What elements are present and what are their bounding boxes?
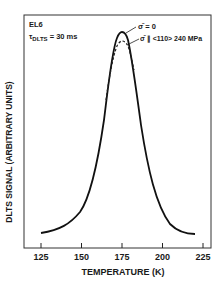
x-tick-125: 125 xyxy=(33,252,48,262)
x-ticks xyxy=(41,243,203,248)
x-axis-title: TEMPERATURE (K) xyxy=(82,267,165,277)
series-sigma-zero xyxy=(41,32,195,234)
x-tick-150: 150 xyxy=(74,252,89,262)
legend-sigma-zero: σ̄ = 0 xyxy=(138,22,156,31)
rate-window-label: τDLTS = 30 ms xyxy=(29,32,77,42)
legend-sigma-stress: σ̄ ∥ <110> 240 MPa xyxy=(140,35,202,43)
x-tick-225: 225 xyxy=(195,252,210,262)
plot-frame xyxy=(24,15,211,248)
x-tick-labels: 125 150 175 200 225 xyxy=(33,252,210,262)
leader-sigma-stress xyxy=(129,39,139,44)
leader-sigma-zero xyxy=(126,27,136,33)
x-tick-200: 200 xyxy=(155,252,170,262)
x-tick-175: 175 xyxy=(114,252,129,262)
tau-subscript: DLTS xyxy=(32,36,47,42)
dlts-chart: 125 150 175 200 225 TEMPERATURE (K) DLTS… xyxy=(0,0,218,284)
tau-value: = 30 ms xyxy=(48,32,78,41)
y-axis-title: DLTS SIGNAL (ARBITRARY UNITS) xyxy=(4,81,14,223)
sample-label: EL6 xyxy=(29,20,43,29)
